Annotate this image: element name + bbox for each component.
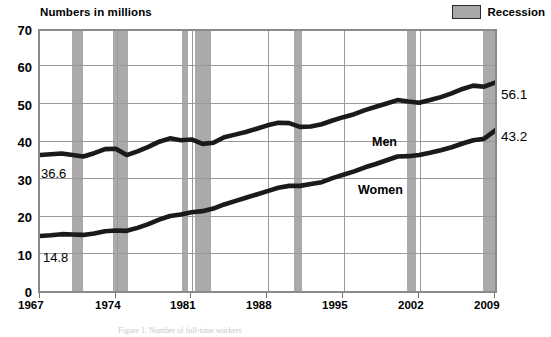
x-tick-label-1995: 1995 [322,299,348,311]
x-tick-label-1967: 1967 [18,299,44,311]
x-tick-label-1974: 1974 [95,299,121,311]
x-tickmark-1974 [115,293,116,298]
series-lines [40,31,495,291]
y-tick-70: 70 [4,23,32,38]
figure-container: Numbers in millions Recession 70 60 50 4… [0,0,551,337]
x-tickmark-1995 [342,293,343,298]
figure-caption: Figure 1. Number of full-time workers [118,326,242,335]
x-tickmark-1967 [39,293,40,298]
x-tick-label-2009: 2009 [474,299,500,311]
x-tick-label-2002: 2002 [398,299,424,311]
y-tick-40: 40 [4,135,32,150]
x-tickmark-2009 [494,293,495,298]
x-tick-label-1981: 1981 [170,299,196,311]
y-tick-20: 20 [4,210,32,225]
series-label-men: Men [372,135,397,149]
recession-swatch-icon [452,5,481,19]
line-series-men [40,83,495,157]
chart-title: Numbers in millions [40,6,152,18]
plot-inner: Men Women 36.6 14.8 [40,31,495,291]
end-value-women: 43.2 [501,129,527,144]
y-tick-60: 60 [4,60,32,75]
x-tickmark-1988 [266,293,267,298]
y-tick-30: 30 [4,173,32,188]
series-label-women: Women [358,183,403,197]
start-value-women: 14.8 [43,250,68,265]
end-value-men: 56.1 [501,87,527,102]
x-tickmark-2002 [418,293,419,298]
start-value-men: 36.6 [41,166,66,181]
plot-area: Men Women 36.6 14.8 [38,29,497,293]
x-tick-label-1988: 1988 [246,299,272,311]
x-tickmark-1981 [190,293,191,298]
legend-label-recession: Recession [487,6,545,18]
y-tick-50: 50 [4,98,32,113]
line-series-women [40,131,495,236]
chart-legend: Recession [452,5,545,19]
y-tick-10: 10 [4,248,32,263]
y-tick-0: 0 [4,285,32,300]
